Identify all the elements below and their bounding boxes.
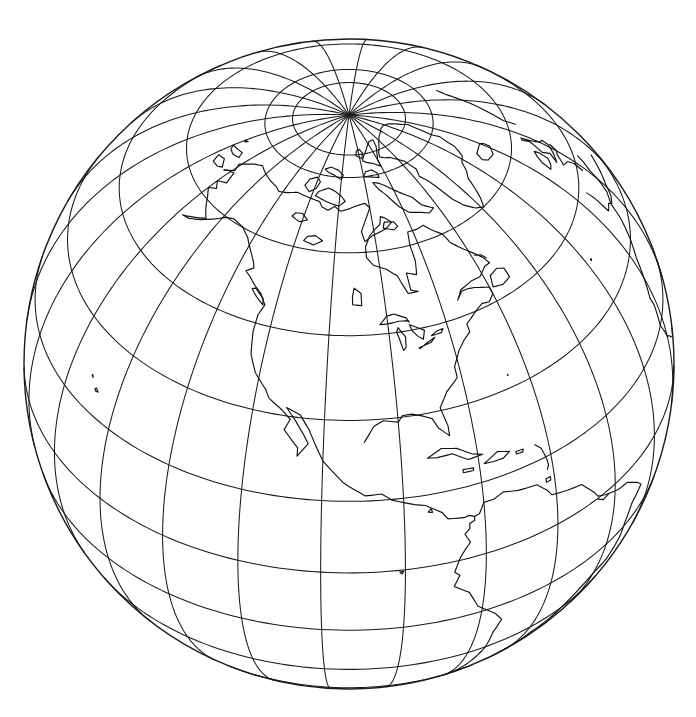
map-background <box>0 0 696 717</box>
orthographic-globe-svg <box>0 0 696 717</box>
globe-map-figure: Orthographic globe map centered on North… <box>0 0 696 717</box>
